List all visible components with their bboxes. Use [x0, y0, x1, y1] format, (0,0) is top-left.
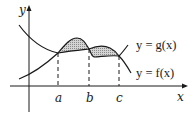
curve-label-f: y = f(x): [136, 66, 174, 80]
curve-label-g: y = g(x): [136, 38, 176, 52]
point-label-a: a: [55, 91, 62, 105]
point-label-b: b: [86, 91, 94, 105]
area-between-curves-diagram: y x a b c y = g(x) y = f(x): [0, 0, 196, 118]
x-axis-arrow-icon: [182, 84, 188, 89]
y-axis-label: y: [18, 3, 26, 17]
y-axis-arrow-icon: [27, 5, 32, 11]
x-axis-label: x: [177, 90, 184, 104]
point-label-c: c: [116, 91, 123, 105]
